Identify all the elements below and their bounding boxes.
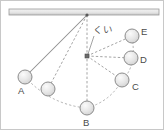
pendulum-balls [18, 29, 139, 115]
swing-path-arcs [25, 36, 133, 108]
pendulum-diagram-canvas: A B C D E くい [1, 1, 164, 130]
ball-E [125, 29, 139, 43]
peg-marker [85, 54, 89, 58]
string-pivot-to-A [25, 15, 87, 77]
ball-D [124, 51, 138, 65]
ball-A [18, 70, 32, 84]
pendulum-figure: A B C D E くい [0, 0, 164, 130]
pivot-point [85, 13, 88, 16]
ball-B [80, 101, 94, 115]
label-A: A [18, 85, 25, 96]
arc-A-to-B [25, 77, 87, 108]
peg-leader-line [88, 36, 94, 54]
pendulum-strings [25, 15, 132, 108]
label-D: D [140, 54, 147, 65]
peg-label: くい [93, 24, 113, 35]
ceiling-bar [9, 9, 159, 15]
label-C: C [132, 81, 139, 92]
label-B: B [83, 117, 89, 128]
ceiling-support [9, 9, 159, 15]
ball-C [115, 73, 129, 87]
string-pivot-to-A2 [48, 15, 87, 89]
ball-A2 [41, 82, 55, 96]
label-E: E [141, 26, 147, 37]
